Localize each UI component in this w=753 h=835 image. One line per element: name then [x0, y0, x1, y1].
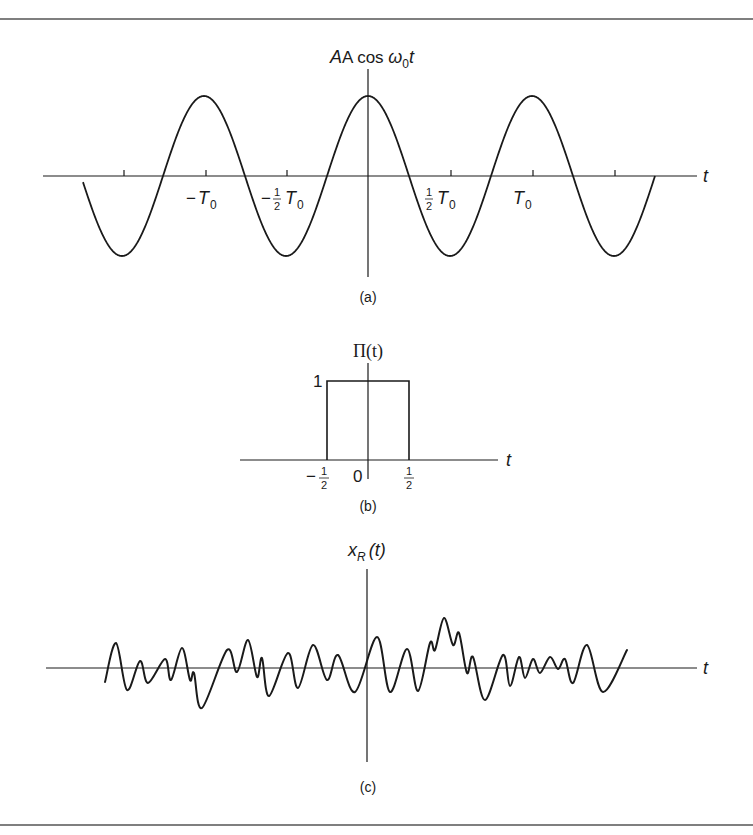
- panel-a-cosine: AA cos ω0t t −T0−12T012T0T0 (a): [43, 47, 709, 305]
- svg-text:2: 2: [426, 200, 432, 212]
- svg-text:2: 2: [274, 200, 280, 212]
- tick-label: −12T0: [261, 186, 304, 212]
- svg-text:2: 2: [406, 479, 412, 491]
- figure-canvas: AA cos ω0t t −T0−12T012T0T0 (a) Π(t) 1 t…: [0, 0, 753, 835]
- b-y-axis-label: Π(t): [353, 341, 383, 362]
- c-caption: (c): [360, 779, 376, 795]
- c-x-axis-label: t: [703, 658, 709, 678]
- svg-text:0: 0: [210, 198, 217, 212]
- svg-text:−: −: [261, 189, 271, 208]
- tick-label: −T0: [186, 188, 217, 212]
- panel-c-noise: xR(t) t (c): [46, 540, 709, 795]
- svg-text:0: 0: [449, 198, 456, 212]
- b-tick-label-neg-half: − 1 2: [306, 465, 329, 491]
- svg-text:0: 0: [525, 198, 532, 212]
- svg-text:1: 1: [426, 186, 432, 198]
- b-tick-label-pos-half: 1 2: [404, 465, 414, 491]
- a-x-axis-label: t: [703, 166, 709, 186]
- svg-text:−: −: [306, 467, 316, 486]
- tick-label: T0: [513, 188, 532, 212]
- svg-text:1: 1: [406, 465, 412, 477]
- b-height-label: 1: [313, 372, 322, 391]
- a-caption: (a): [359, 289, 376, 305]
- panel-b-rect: Π(t) 1 t − 1 2 0 1 2 (b): [240, 341, 512, 514]
- b-tick-label-zero: 0: [353, 467, 362, 486]
- svg-text:2: 2: [321, 479, 327, 491]
- svg-text:1: 1: [274, 186, 280, 198]
- random-waveform: [105, 618, 627, 708]
- svg-text:1: 1: [321, 465, 327, 477]
- a-tick-marks: [124, 170, 615, 176]
- c-y-axis-label: xR(t): [347, 540, 386, 564]
- b-x-axis-label: t: [506, 450, 512, 470]
- b-caption: (b): [359, 498, 376, 514]
- svg-text:−: −: [186, 189, 196, 208]
- a-y-axis-label: AA cos ω0t: [329, 47, 415, 71]
- tick-label: 12T0: [425, 186, 456, 212]
- svg-text:0: 0: [297, 198, 304, 212]
